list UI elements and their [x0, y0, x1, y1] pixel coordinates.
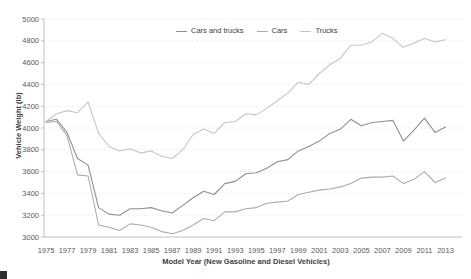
- legend-line-marker: [257, 31, 268, 32]
- chart-legend: Cars and trucksCarsTrucks: [176, 26, 338, 36]
- x-tick-label: 2001: [311, 246, 328, 255]
- y-tick-label: 3400: [22, 189, 39, 198]
- x-tick-label: 1999: [290, 246, 307, 255]
- x-axis-title: Model Year (New Gasoline and Diesel Vehi…: [46, 257, 446, 266]
- x-tick-label: 2011: [416, 246, 432, 255]
- x-tick-label: 1985: [143, 246, 160, 255]
- legend-label: Trucks: [315, 26, 337, 36]
- legend-line-marker: [176, 31, 187, 32]
- y-tick-label: 4600: [22, 58, 39, 67]
- x-tick-label: 1987: [164, 246, 181, 255]
- x-tick-label: 2007: [374, 246, 391, 255]
- x-tick-label: 1995: [248, 246, 265, 255]
- y-tick-label: 4400: [22, 80, 39, 89]
- y-tick-label: 3000: [22, 233, 39, 242]
- y-axis-title: Vehicle Weight (lb): [14, 81, 23, 171]
- y-tick-label: 3800: [22, 145, 39, 154]
- x-tick-label: 2009: [395, 246, 412, 255]
- x-tick-label: 1991: [206, 246, 223, 255]
- legend-label: Cars and trucks: [191, 26, 244, 36]
- x-tick-label: 1979: [80, 246, 97, 255]
- series-line-cars-and-trucks: [46, 118, 446, 215]
- x-tick-label: 2013: [437, 246, 454, 255]
- legend-item-trucks: Trucks: [300, 26, 337, 36]
- y-tick-label: 3200: [22, 211, 39, 220]
- x-tick-label: 1975: [38, 246, 55, 255]
- legend-item-cars: Cars: [257, 26, 288, 36]
- x-tick-label: 2005: [353, 246, 370, 255]
- y-tick-label: 4200: [22, 102, 39, 111]
- x-tick-label: 1981: [101, 246, 118, 255]
- corner-artifact: [0, 271, 7, 279]
- legend-label: Cars: [272, 26, 288, 36]
- vehicle-weight-chart: 3000320034003600380040004200440046004800…: [0, 0, 471, 279]
- legend-item-cars-and-trucks: Cars and trucks: [176, 26, 244, 36]
- x-tick-label: 1993: [227, 246, 244, 255]
- x-tick-label: 1977: [59, 246, 76, 255]
- x-tick-label: 1989: [185, 246, 202, 255]
- y-tick-label: 3600: [22, 167, 39, 176]
- x-tick-label: 2003: [332, 246, 349, 255]
- y-tick-label: 5000: [22, 15, 39, 24]
- series-line-cars: [46, 122, 446, 234]
- series-line-trucks: [46, 33, 446, 158]
- y-tick-label: 4800: [22, 36, 39, 45]
- y-tick-label: 4000: [22, 124, 39, 133]
- x-tick-label: 1983: [122, 246, 139, 255]
- legend-line-marker: [300, 31, 311, 32]
- x-tick-label: 1997: [269, 246, 286, 255]
- chart-plot-area: 3000320034003600380040004200440046004800…: [0, 0, 471, 279]
